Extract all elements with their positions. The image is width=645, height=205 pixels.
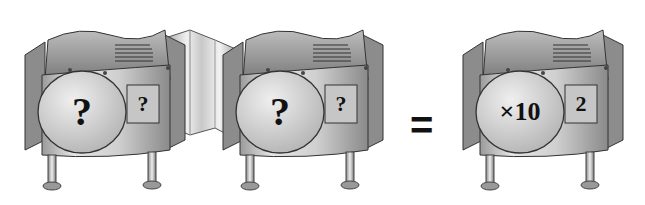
machine-2-box-label: ? <box>325 93 357 115</box>
result-box-label: 2 <box>565 93 597 115</box>
machine-1-dial-label: ? <box>52 92 112 132</box>
equals-sign: = <box>410 105 433 145</box>
result-dial-label: ×10 <box>480 99 560 125</box>
machine-2-dial-label: ? <box>250 92 310 132</box>
machine-1-box-label: ? <box>127 93 159 115</box>
function-machine-diagram: ? ? ? ? = ×10 2 <box>0 0 645 205</box>
